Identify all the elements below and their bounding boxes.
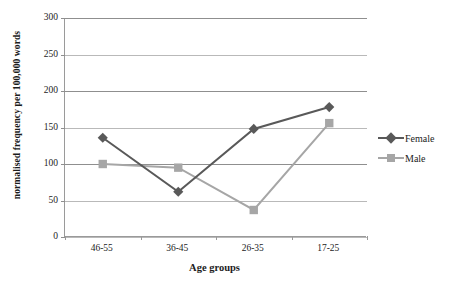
plot-area	[64, 18, 366, 237]
data-point-female-17-25	[324, 102, 334, 112]
legend-label: Male	[404, 153, 426, 164]
y-tick-label: 200	[22, 85, 58, 95]
y-tick-label: 150	[22, 122, 58, 132]
series-plot	[65, 18, 367, 237]
data-point-male-36-45	[174, 163, 182, 171]
series-line-female	[103, 107, 330, 192]
legend-swatch-square-icon	[378, 152, 404, 164]
y-tick-label: 250	[22, 49, 58, 59]
x-tick-mark	[367, 236, 368, 240]
data-point-male-17-25	[325, 119, 333, 127]
x-tick-label: 17-25	[288, 243, 368, 253]
y-axis-title: normalised frequency per 100,000 words	[12, 5, 22, 225]
data-point-male-26-35	[250, 206, 258, 214]
legend-swatch-diamond-icon	[378, 132, 404, 144]
x-tick-label: 46-55	[62, 243, 142, 253]
y-tick-label: 300	[22, 12, 58, 22]
line-chart: normalised frequency per 100,000 words 4…	[0, 0, 456, 289]
x-axis-title: Age groups	[63, 262, 366, 273]
legend-entry-male[interactable]: Male	[378, 148, 454, 168]
x-tick-label: 36-45	[137, 243, 217, 253]
legend-label: Female	[404, 133, 434, 144]
x-tick-label: 26-35	[213, 243, 293, 253]
series-line-male	[103, 123, 330, 210]
chart-legend: FemaleMale	[378, 128, 454, 168]
y-tick-label: 50	[22, 195, 58, 205]
y-tick-label: 100	[22, 158, 58, 168]
y-tick-label: 0	[22, 231, 58, 241]
legend-entry-female[interactable]: Female	[378, 128, 454, 148]
data-point-male-46-55	[99, 160, 107, 168]
